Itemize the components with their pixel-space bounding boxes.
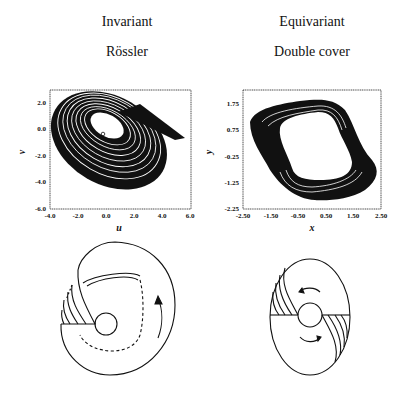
svg-text:-0.25: -0.25 [224, 153, 239, 161]
svg-text:-6.0: -6.0 [35, 205, 47, 213]
figure-canvas: -4.0 -2.0 0.0 2.0 4.0 6.0 2.0 0.0 -2.0 -… [0, 0, 405, 402]
svg-text:-2.0: -2.0 [35, 152, 47, 160]
svg-text:4.0: 4.0 [158, 212, 167, 220]
rossler-y-ticks: 2.0 0.0 -2.0 -4.0 -6.0 [35, 99, 47, 213]
double-cover-x-label: x [309, 222, 315, 233]
svg-text:-0.50: -0.50 [291, 212, 306, 220]
svg-text:6.0: 6.0 [186, 212, 195, 220]
svg-text:-2.0: -2.0 [72, 212, 84, 220]
svg-text:1.75: 1.75 [227, 100, 240, 108]
svg-text:0.0: 0.0 [102, 212, 111, 220]
svg-text:-4.0: -4.0 [44, 212, 56, 220]
svg-text:0.0: 0.0 [37, 125, 46, 133]
svg-text:-1.50: -1.50 [264, 212, 279, 220]
svg-text:0.50: 0.50 [320, 212, 333, 220]
double-cover-branched-manifold [270, 259, 350, 375]
svg-text:-2.50: -2.50 [236, 212, 251, 220]
rossler-x-ticks: -4.0 -2.0 0.0 2.0 4.0 6.0 [44, 212, 194, 220]
svg-text:-1.25: -1.25 [224, 179, 239, 187]
rossler-plot: -4.0 -2.0 0.0 2.0 4.0 6.0 2.0 0.0 -2.0 -… [16, 71, 195, 233]
double-cover-y-ticks: 1.75 0.75 -0.25 -1.25 -2.25 [224, 100, 239, 213]
svg-text:1.50: 1.50 [347, 212, 360, 220]
svg-text:2.50: 2.50 [375, 212, 388, 220]
rossler-x-label: u [116, 222, 122, 233]
double-cover-y-label: y [203, 149, 214, 155]
svg-text:2.0: 2.0 [37, 99, 46, 107]
double-cover-x-ticks: -2.50 -1.50 -0.50 0.50 1.50 2.50 [236, 212, 388, 220]
double-cover-plot: -2.50 -1.50 -0.50 0.50 1.50 2.50 1.75 0.… [203, 90, 388, 233]
svg-text:-4.0: -4.0 [35, 178, 47, 186]
svg-text:0.75: 0.75 [227, 126, 240, 134]
rossler-y-label: v [16, 149, 27, 154]
svg-text:2.0: 2.0 [130, 212, 139, 220]
rossler-branched-manifold [61, 242, 175, 375]
svg-text:-2.25: -2.25 [224, 205, 239, 213]
